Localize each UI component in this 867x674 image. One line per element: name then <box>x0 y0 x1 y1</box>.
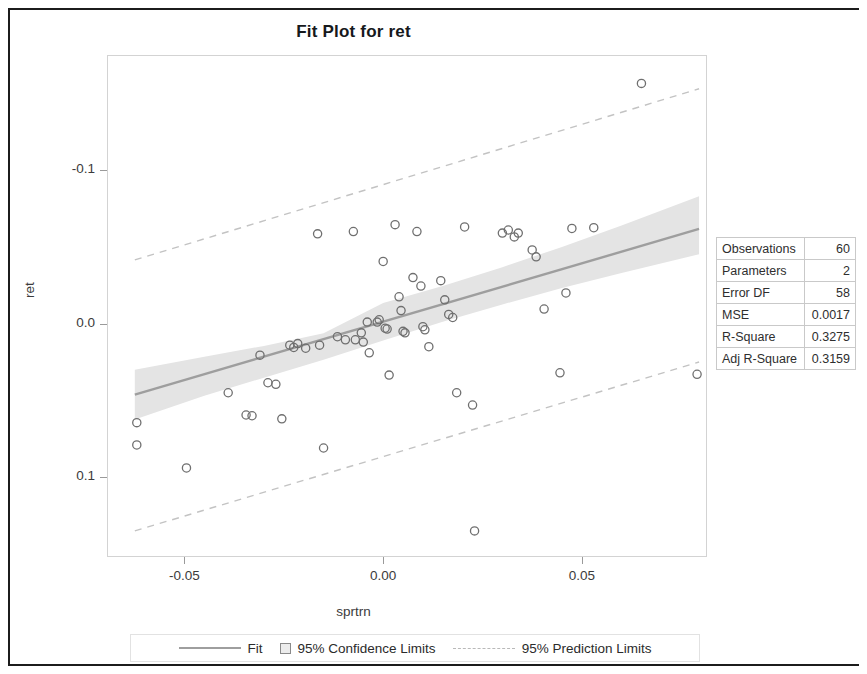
stats-row: Observations60 <box>717 238 856 260</box>
data-point-marker <box>562 289 570 297</box>
data-point-marker <box>590 224 598 232</box>
y-tick-mark <box>100 477 107 478</box>
x-tick-label: -0.05 <box>144 568 224 583</box>
confidence-limits-band <box>135 196 699 419</box>
data-point-marker <box>133 441 141 449</box>
data-point-marker <box>453 389 461 397</box>
data-point-marker <box>182 464 190 472</box>
data-point-marker <box>425 343 433 351</box>
data-point-marker <box>385 371 393 379</box>
data-point-marker <box>468 401 476 409</box>
stats-row: R-Square0.3275 <box>717 326 856 348</box>
data-point-marker <box>461 223 469 231</box>
stats-row: Adj R-Square0.3159 <box>717 348 856 370</box>
stats-key: MSE <box>717 304 805 326</box>
legend-entry-prediction: 95% Prediction Limits <box>453 641 652 656</box>
stats-key: Adj R-Square <box>717 348 805 370</box>
sas-fit-plot-page: Fit Plot for ret ret 0.10.0-0.1-0.050.00… <box>0 0 867 674</box>
stats-value: 0.3275 <box>805 326 856 348</box>
data-point-marker <box>391 221 399 229</box>
data-point-marker <box>556 369 564 377</box>
data-point-marker <box>365 349 373 357</box>
confidence-band-swatch-icon <box>280 643 291 654</box>
data-point-marker <box>693 370 701 378</box>
y-tick-mark <box>100 324 107 325</box>
y-tick-mark <box>100 170 107 171</box>
data-point-marker <box>133 419 141 427</box>
fit-line-swatch-icon <box>179 647 241 649</box>
data-point-marker <box>413 227 421 235</box>
legend-label-fit: Fit <box>248 641 263 656</box>
x-tick-label: 0.05 <box>542 568 622 583</box>
x-tick-label: 0.00 <box>343 568 423 583</box>
data-point-marker <box>540 305 548 313</box>
data-point-marker <box>409 274 417 282</box>
x-tick-mark <box>383 557 384 564</box>
data-point-marker <box>637 79 645 87</box>
stats-value: 58 <box>805 282 856 304</box>
legend-label-prediction: 95% Prediction Limits <box>522 641 652 656</box>
stats-row: MSE0.0017 <box>717 304 856 326</box>
fit-line <box>135 229 699 395</box>
fit-statistics-table: Observations60Parameters2Error DF58MSE0.… <box>716 237 856 370</box>
stats-key: Error DF <box>717 282 805 304</box>
data-point-marker <box>437 277 445 285</box>
data-point-marker <box>272 380 280 388</box>
confidence-band-shape <box>135 196 699 419</box>
x-tick-mark <box>184 557 185 564</box>
stats-value: 2 <box>805 260 856 282</box>
data-point-marker <box>349 227 357 235</box>
stats-key: Observations <box>717 238 805 260</box>
data-point-marker <box>264 379 272 387</box>
legend-entry-confidence: 95% Confidence Limits <box>280 641 436 656</box>
data-point-marker <box>379 257 387 265</box>
x-axis-label: sprtrn <box>0 604 707 619</box>
stats-key: Parameters <box>717 260 805 282</box>
data-point-marker <box>278 415 286 423</box>
stats-value: 0.3159 <box>805 348 856 370</box>
data-point-marker <box>319 444 327 452</box>
y-tick-label: 0.0 <box>39 315 95 330</box>
plot-legend: Fit 95% Confidence Limits 95% Prediction… <box>130 634 700 662</box>
page-title: Fit Plot for ret <box>0 22 707 42</box>
plot-area <box>107 55 707 557</box>
stats-value: 60 <box>805 238 856 260</box>
y-axis-label: ret <box>22 282 37 298</box>
prediction-limits-swatch-icon <box>453 648 515 649</box>
scatter-plot-svg <box>107 55 707 557</box>
y-tick-label: -0.1 <box>39 161 95 176</box>
data-point-marker <box>568 224 576 232</box>
stats-key: R-Square <box>717 326 805 348</box>
data-point-marker <box>248 412 256 420</box>
data-point-marker <box>470 527 478 535</box>
data-point-marker <box>224 389 232 397</box>
x-tick-mark <box>582 557 583 564</box>
stats-row: Error DF58 <box>717 282 856 304</box>
data-point-marker <box>314 230 322 238</box>
data-point-marker <box>417 282 425 290</box>
stats-value: 0.0017 <box>805 304 856 326</box>
stats-row: Parameters2 <box>717 260 856 282</box>
y-tick-label: 0.1 <box>39 468 95 483</box>
legend-label-confidence: 95% Confidence Limits <box>298 641 436 656</box>
fit-line-path <box>135 229 699 395</box>
legend-entry-fit: Fit <box>179 641 263 656</box>
